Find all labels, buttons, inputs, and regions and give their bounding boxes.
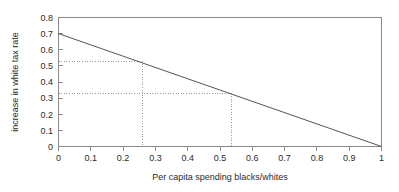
x-tick-label: 0.2	[117, 153, 130, 163]
line-chart: 0 0.1 0.2 0.3 0.4 0.5 0.6 0.7 0.8 0 0.1 …	[0, 0, 399, 192]
x-tick-label: 0.4	[181, 153, 194, 163]
x-tick-label: 0.7	[278, 153, 291, 163]
y-tick-label: 0.8	[40, 13, 53, 23]
y-tick-label: 0.5	[40, 61, 53, 71]
x-tick-label: 0	[56, 153, 61, 163]
x-tick-label: 0.8	[311, 153, 324, 163]
y-tick-label: 0.3	[40, 93, 53, 103]
x-tick-label: 0.6	[246, 153, 259, 163]
y-axis-title: increase in white tax rate	[10, 32, 20, 132]
x-tick-label: 0.5	[214, 153, 227, 163]
y-tick-label: 0.1	[40, 126, 53, 136]
chart-background	[0, 0, 399, 192]
y-tick-label: 0.7	[40, 29, 53, 39]
y-tick-label: 0.6	[40, 45, 53, 55]
y-tick-label: 0.4	[40, 77, 53, 87]
x-tick-label: 0.3	[149, 153, 162, 163]
x-tick-label: 0.9	[343, 153, 356, 163]
y-tick-labels: 0 0.1 0.2 0.3 0.4 0.5 0.6 0.7 0.8	[40, 13, 53, 152]
y-tick-label: 0.2	[40, 110, 53, 120]
chart-figure: 0 0.1 0.2 0.3 0.4 0.5 0.6 0.7 0.8 0 0.1 …	[0, 0, 399, 192]
x-axis-title: Per capita spending blacks/whites	[152, 172, 288, 182]
y-tick-label: 0	[48, 142, 53, 152]
x-tick-label: 1	[379, 153, 384, 163]
x-tick-label: 0.1	[85, 153, 98, 163]
